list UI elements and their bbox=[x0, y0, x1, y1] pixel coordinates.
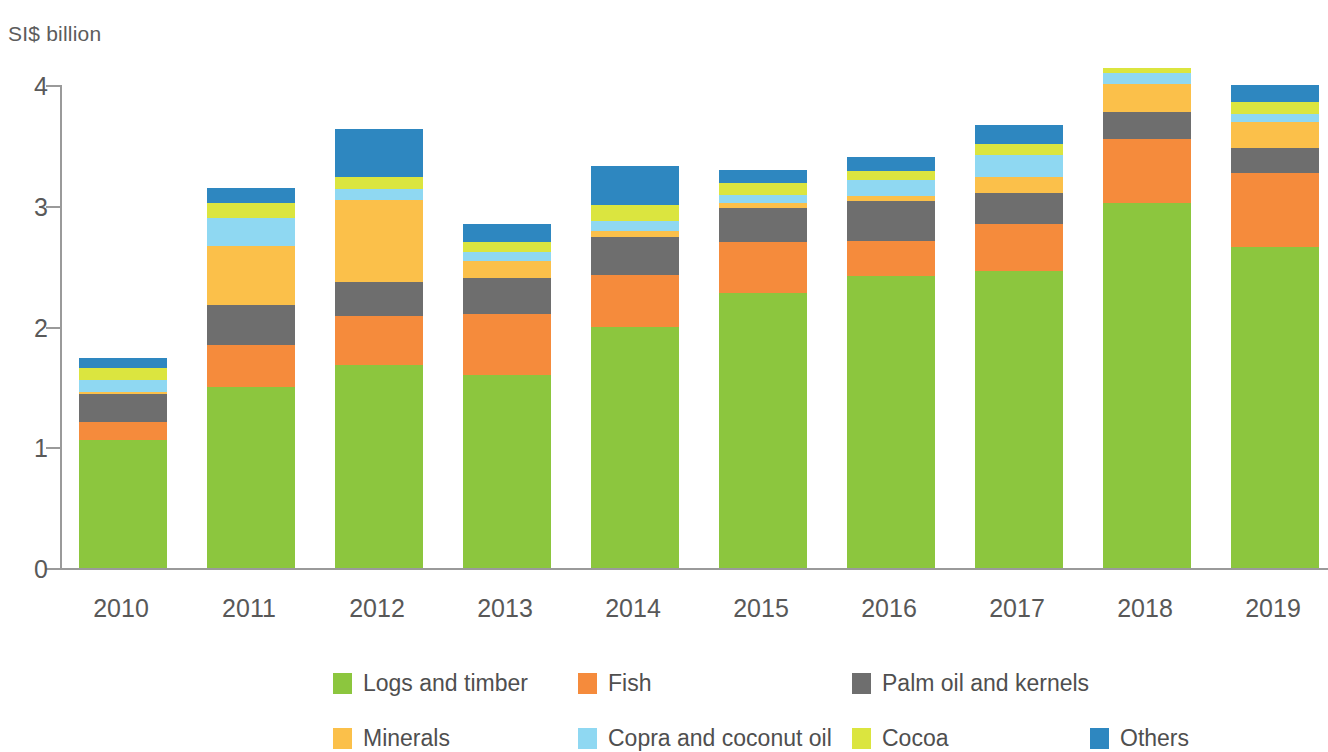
bar-segment-copra-and-coconut-oil[interactable] bbox=[207, 218, 295, 246]
bar-segment-others[interactable] bbox=[1231, 85, 1319, 102]
legend-swatch-icon bbox=[333, 673, 352, 694]
x-axis-line bbox=[60, 568, 1328, 570]
x-axis-label-2016: 2016 bbox=[845, 594, 933, 623]
y-axis-unit-label: SI$ billion bbox=[8, 22, 101, 46]
bar-segment-palm-oil-and-kernels[interactable] bbox=[1231, 148, 1319, 173]
bar-segment-cocoa[interactable] bbox=[463, 242, 551, 252]
bar-segment-logs-and-timber[interactable] bbox=[1231, 247, 1319, 568]
x-axis-label-2013: 2013 bbox=[461, 594, 549, 623]
bar-segment-palm-oil-and-kernels[interactable] bbox=[335, 282, 423, 316]
bar-segment-palm-oil-and-kernels[interactable] bbox=[1103, 112, 1191, 140]
bar-segment-logs-and-timber[interactable] bbox=[207, 387, 295, 568]
bar-segment-fish[interactable] bbox=[975, 224, 1063, 271]
bar-2019[interactable] bbox=[1231, 85, 1319, 568]
bar-2012[interactable] bbox=[335, 129, 423, 568]
x-axis-label-2014: 2014 bbox=[589, 594, 677, 623]
bar-segment-fish[interactable] bbox=[463, 314, 551, 374]
y-tick-label: 0 bbox=[34, 557, 48, 582]
bar-segment-palm-oil-and-kernels[interactable] bbox=[79, 394, 167, 422]
bar-segment-logs-and-timber[interactable] bbox=[591, 327, 679, 569]
legend-label: Fish bbox=[608, 672, 651, 695]
legend-item-others[interactable]: Others bbox=[1090, 727, 1189, 750]
bar-segment-logs-and-timber[interactable] bbox=[463, 375, 551, 568]
bar-segment-others[interactable] bbox=[335, 129, 423, 177]
bar-segment-fish[interactable] bbox=[847, 241, 935, 276]
legend-item-copra-and-coconut-oil[interactable]: Copra and coconut oil bbox=[578, 727, 832, 750]
bar-segment-copra-and-coconut-oil[interactable] bbox=[463, 252, 551, 262]
bar-segment-others[interactable] bbox=[79, 358, 167, 368]
legend-item-logs-and-timber[interactable]: Logs and timber bbox=[333, 672, 528, 695]
legend-swatch-icon bbox=[578, 728, 597, 749]
bar-segment-minerals[interactable] bbox=[463, 261, 551, 278]
bar-segment-copra-and-coconut-oil[interactable] bbox=[335, 189, 423, 200]
bar-segment-others[interactable] bbox=[975, 125, 1063, 144]
bar-segment-copra-and-coconut-oil[interactable] bbox=[719, 195, 807, 203]
bar-segment-fish[interactable] bbox=[207, 345, 295, 387]
bar-segment-cocoa[interactable] bbox=[847, 171, 935, 181]
x-axis-label-2011: 2011 bbox=[205, 594, 293, 623]
legend-item-cocoa[interactable]: Cocoa bbox=[852, 727, 948, 750]
bar-2013[interactable] bbox=[463, 224, 551, 568]
bar-segment-copra-and-coconut-oil[interactable] bbox=[1103, 73, 1191, 84]
legend-swatch-icon bbox=[578, 673, 597, 694]
legend-label: Cocoa bbox=[882, 727, 948, 750]
bar-2018[interactable] bbox=[1103, 68, 1191, 568]
bar-segment-palm-oil-and-kernels[interactable] bbox=[719, 208, 807, 242]
bar-segment-cocoa[interactable] bbox=[1231, 102, 1319, 114]
bar-segment-cocoa[interactable] bbox=[335, 177, 423, 189]
bar-segment-logs-and-timber[interactable] bbox=[719, 293, 807, 568]
bar-segment-logs-and-timber[interactable] bbox=[847, 276, 935, 568]
legend-item-palm-oil-and-kernels[interactable]: Palm oil and kernels bbox=[852, 672, 1089, 695]
bar-segment-fish[interactable] bbox=[79, 422, 167, 440]
bar-segment-cocoa[interactable] bbox=[79, 368, 167, 380]
bar-segment-cocoa[interactable] bbox=[975, 144, 1063, 155]
y-tick-label: 1 bbox=[34, 436, 48, 461]
bar-segment-others[interactable] bbox=[719, 170, 807, 183]
bar-segment-copra-and-coconut-oil[interactable] bbox=[79, 380, 167, 392]
bar-segment-fish[interactable] bbox=[719, 242, 807, 293]
bar-2014[interactable] bbox=[591, 166, 679, 568]
bar-2011[interactable] bbox=[207, 188, 295, 568]
bar-segment-palm-oil-and-kernels[interactable] bbox=[207, 305, 295, 345]
bar-segment-others[interactable] bbox=[463, 224, 551, 242]
x-axis-label-2017: 2017 bbox=[973, 594, 1061, 623]
bar-segment-fish[interactable] bbox=[591, 275, 679, 327]
bar-segment-copra-and-coconut-oil[interactable] bbox=[591, 221, 679, 231]
y-tick-mark bbox=[46, 447, 60, 449]
bar-2017[interactable] bbox=[975, 125, 1063, 568]
legend-item-fish[interactable]: Fish bbox=[578, 672, 651, 695]
bar-segment-palm-oil-and-kernels[interactable] bbox=[463, 278, 551, 314]
bar-segment-minerals[interactable] bbox=[975, 177, 1063, 193]
bar-2010[interactable] bbox=[79, 358, 167, 568]
bar-2015[interactable] bbox=[719, 170, 807, 568]
bar-segment-minerals[interactable] bbox=[335, 200, 423, 282]
bar-segment-others[interactable] bbox=[207, 188, 295, 204]
bar-segment-logs-and-timber[interactable] bbox=[79, 440, 167, 568]
bar-segment-fish[interactable] bbox=[1103, 139, 1191, 203]
bar-2016[interactable] bbox=[847, 157, 935, 568]
bar-segment-others[interactable] bbox=[847, 157, 935, 170]
legend-item-minerals[interactable]: Minerals bbox=[333, 727, 450, 750]
bar-segment-fish[interactable] bbox=[335, 316, 423, 366]
bar-segment-logs-and-timber[interactable] bbox=[335, 365, 423, 568]
bar-segment-copra-and-coconut-oil[interactable] bbox=[1231, 114, 1319, 122]
bar-segment-palm-oil-and-kernels[interactable] bbox=[847, 201, 935, 241]
bar-segment-cocoa[interactable] bbox=[719, 183, 807, 195]
y-tick-label: 2 bbox=[34, 315, 48, 340]
legend-label: Copra and coconut oil bbox=[608, 727, 832, 750]
bar-segment-palm-oil-and-kernels[interactable] bbox=[975, 193, 1063, 224]
x-axis-label-2018: 2018 bbox=[1101, 594, 1189, 623]
bar-segment-palm-oil-and-kernels[interactable] bbox=[591, 237, 679, 274]
y-tick-mark bbox=[46, 85, 60, 87]
bar-segment-cocoa[interactable] bbox=[591, 205, 679, 222]
bar-segment-fish[interactable] bbox=[1231, 173, 1319, 247]
bar-segment-others[interactable] bbox=[591, 166, 679, 205]
bar-segment-copra-and-coconut-oil[interactable] bbox=[847, 180, 935, 196]
bar-segment-cocoa[interactable] bbox=[207, 203, 295, 217]
bar-segment-minerals[interactable] bbox=[1231, 122, 1319, 147]
bar-segment-logs-and-timber[interactable] bbox=[975, 271, 1063, 568]
bar-segment-logs-and-timber[interactable] bbox=[1103, 203, 1191, 568]
bar-segment-minerals[interactable] bbox=[207, 246, 295, 305]
bar-segment-copra-and-coconut-oil[interactable] bbox=[975, 155, 1063, 177]
bar-segment-minerals[interactable] bbox=[1103, 84, 1191, 112]
